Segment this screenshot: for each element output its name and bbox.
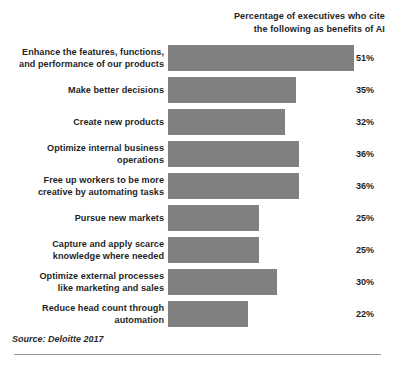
bar-track (168, 172, 354, 200)
bar-row-label: Optimize external processeslike marketin… (6, 270, 164, 295)
bar-row-label-line: Optimize internal business (6, 142, 164, 154)
bar-track (168, 76, 354, 104)
bar-row-label-line: Make better decisions (6, 84, 164, 96)
bar-value-label: 25% (356, 245, 374, 255)
bar-value-label: 25% (356, 213, 374, 223)
bar-fill (168, 173, 299, 199)
chart-subtitle: Percentage of executives who cite the fo… (180, 10, 385, 35)
bar-value-label: 32% (356, 117, 374, 127)
bar-track (168, 204, 354, 232)
bar-row-label: Enhance the features, functions,and perf… (6, 46, 164, 71)
bar-row: Optimize internal businessoperations36% (0, 140, 395, 168)
bar-value-label: 30% (356, 277, 374, 287)
bar-row: Enhance the features, functions,and perf… (0, 44, 395, 72)
bottom-divider (14, 354, 381, 355)
bar-row-label-line: knowledge where needed (6, 250, 164, 262)
bar-value-label: 36% (356, 149, 374, 159)
bar-fill (168, 77, 296, 103)
bar-row-label-line: like marketing and sales (6, 282, 164, 294)
bar-row: Pursue new markets25% (0, 204, 395, 232)
bar-value-label: 51% (356, 53, 374, 63)
chart-subtitle-line-1: Percentage of executives who cite (180, 10, 385, 23)
bar-row-label-line: automation (6, 314, 164, 326)
bar-track (168, 108, 354, 136)
bar-value-label: 35% (356, 85, 374, 95)
chart-plot-area: Enhance the features, functions,and perf… (0, 44, 395, 332)
bar-row-label: Make better decisions (6, 84, 164, 96)
bar-row-label-line: Capture and apply scarce (6, 238, 164, 250)
bar-row: Capture and apply scarceknowledge where … (0, 236, 395, 264)
bar-row: Create new products32% (0, 108, 395, 136)
bar-row-label-line: Enhance the features, functions, (6, 46, 164, 58)
bar-fill (168, 109, 285, 135)
bar-row-label-line: and performance of our products (6, 58, 164, 70)
bar-value-label: 22% (356, 309, 374, 319)
bar-row: Optimize external processeslike marketin… (0, 268, 395, 296)
bar-row: Free up workers to be morecreative by au… (0, 172, 395, 200)
bar-row-label-line: operations (6, 154, 164, 166)
bar-track (168, 44, 354, 72)
bar-fill (168, 141, 299, 167)
bar-value-label: 36% (356, 181, 374, 191)
bar-row-label-line: Pursue new markets (6, 212, 164, 224)
bar-fill (168, 269, 277, 295)
bar-row-label: Free up workers to be morecreative by au… (6, 174, 164, 199)
bar-fill (168, 301, 248, 327)
source-note: Source: Deloitte 2017 (12, 334, 104, 344)
bar-row-label-line: creative by automating tasks (6, 186, 164, 198)
bar-row-label: Capture and apply scarceknowledge where … (6, 238, 164, 263)
bar-row-label: Reduce head count throughautomation (6, 302, 164, 327)
bar-row-label-line: Reduce head count through (6, 302, 164, 314)
bar-fill (168, 205, 259, 231)
bar-row-label-line: Create new products (6, 116, 164, 128)
bar-row-label-line: Optimize external processes (6, 270, 164, 282)
bar-track (168, 300, 354, 328)
bar-chart-figure: Percentage of executives who cite the fo… (0, 0, 395, 367)
bar-fill (168, 237, 259, 263)
bar-track (168, 236, 354, 264)
bar-track (168, 268, 354, 296)
bar-track (168, 140, 354, 168)
bar-row-label-line: Free up workers to be more (6, 174, 164, 186)
bar-row: Make better decisions35% (0, 76, 395, 104)
chart-subtitle-line-2: the following as benefits of AI (180, 23, 385, 36)
bar-row: Reduce head count throughautomation22% (0, 300, 395, 328)
bar-row-label: Pursue new markets (6, 212, 164, 224)
bar-fill (168, 45, 354, 71)
bar-row-label: Create new products (6, 116, 164, 128)
bar-row-label: Optimize internal businessoperations (6, 142, 164, 167)
